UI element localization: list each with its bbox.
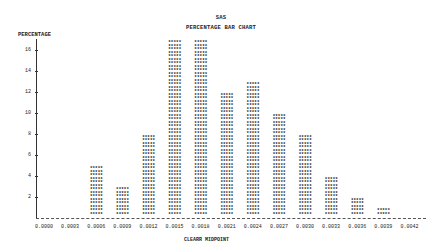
y-tick-mark (35, 71, 38, 72)
y-tick-label: 2 (11, 194, 31, 200)
x-tick-label: 0.0003 (57, 224, 83, 230)
bar: ****************************************… (192, 39, 209, 218)
bar: ****************************************… (323, 175, 340, 217)
y-tick-label: 4 (11, 173, 31, 179)
x-tick-label: 0.0024 (240, 224, 266, 230)
x-tick-label: 0.0015 (162, 224, 188, 230)
y-tick-label: 10 (11, 110, 31, 116)
y-tick-label: 8 (11, 131, 31, 137)
y-tick-mark (35, 155, 38, 156)
x-tick-label: 0.0006 (83, 224, 109, 230)
x-tick-label: 0.0033 (318, 224, 344, 230)
x-tick-label: 0.0042 (396, 224, 422, 230)
bar: ****************************************… (218, 91, 235, 217)
chart-subtitle: SAS (0, 14, 442, 21)
y-tick-mark (35, 50, 38, 51)
y-tick-mark (35, 176, 38, 177)
y-axis-line (36, 39, 37, 218)
bar: ****************************************… (166, 39, 183, 218)
bar: ****************************************… (114, 186, 131, 218)
bar: ****************************************… (297, 133, 314, 217)
y-tick-mark (35, 113, 38, 114)
chart-title: PERCENTAGE BAR CHART (0, 24, 442, 31)
bar: ****************************** (349, 196, 366, 217)
bar: ****************************************… (140, 133, 157, 217)
bar: *************** (375, 207, 392, 218)
bar: ****************************************… (88, 165, 105, 218)
x-tick-label: 0.0030 (292, 224, 318, 230)
y-axis-label: PERCENTAGE (18, 31, 51, 38)
x-axis-line (36, 218, 426, 219)
y-tick-label: 16 (11, 47, 31, 53)
y-tick-mark (35, 92, 38, 93)
y-tick-mark (35, 134, 38, 135)
x-tick-label: 0.0009 (109, 224, 135, 230)
x-tick-label: 0.0036 (344, 224, 370, 230)
x-tick-label: 0.0021 (214, 224, 240, 230)
x-tick-label: 0.0000 (31, 224, 57, 230)
y-tick-label: 6 (11, 152, 31, 158)
x-tick-label: 0.0012 (135, 224, 161, 230)
y-tick-label: 12 (11, 89, 31, 95)
x-axis-label: CLEARR MIDPOINT (184, 237, 229, 243)
x-tick-label: 0.0018 (188, 224, 214, 230)
bar: ****************************************… (270, 112, 287, 217)
y-tick-mark (35, 197, 38, 198)
y-tick-label: 14 (11, 68, 31, 74)
x-tick-label: 0.0039 (370, 224, 396, 230)
x-tick-label: 0.0027 (266, 224, 292, 230)
bar: ****************************************… (244, 81, 261, 218)
